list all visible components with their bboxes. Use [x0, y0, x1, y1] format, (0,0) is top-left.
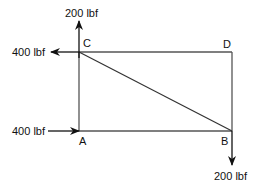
force-label-c-up: 200 lbf — [65, 7, 99, 19]
force-label-c-left: 400 lbf — [12, 46, 46, 58]
frame-members — [79, 52, 232, 131]
member-cb-diagonal — [79, 52, 232, 131]
point-label-b: B — [221, 135, 228, 147]
truss-diagram: 200 lbf 400 lbf 400 lbf 200 lbf C D A B — [0, 0, 257, 189]
force-label-b-down: 200 lbf — [214, 170, 248, 182]
point-label-d: D — [223, 38, 231, 50]
point-label-c: C — [83, 37, 91, 49]
point-label-a: A — [79, 135, 87, 147]
force-label-a-right: 400 lbf — [12, 125, 46, 137]
